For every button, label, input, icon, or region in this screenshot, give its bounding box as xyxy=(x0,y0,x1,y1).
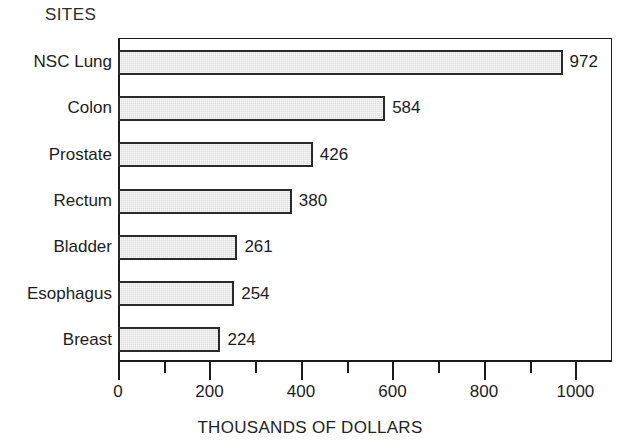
category-label: Breast xyxy=(0,330,112,350)
x-axis-tick-label: 1000 xyxy=(556,382,594,402)
bar-value-label: 380 xyxy=(299,191,327,211)
x-axis-minor-tick xyxy=(164,362,166,373)
x-axis-major-tick xyxy=(484,362,486,380)
x-axis-tick-label: 200 xyxy=(195,382,223,402)
bar-value-label: 972 xyxy=(570,52,598,72)
category-axis-labels: NSC LungColonProstateRectumBladderEsopha… xyxy=(0,38,112,362)
bars-layer xyxy=(118,38,612,362)
bar xyxy=(118,189,292,214)
x-axis-major-tick xyxy=(118,362,120,380)
x-axis-title: THOUSANDS OF DOLLARS xyxy=(0,418,620,438)
x-axis-tick-label: 600 xyxy=(378,382,406,402)
x-axis-minor-tick xyxy=(530,362,532,373)
bar xyxy=(118,50,563,75)
bar xyxy=(118,235,237,260)
category-label: Esophagus xyxy=(0,284,112,304)
bar-value-label: 224 xyxy=(227,330,255,350)
x-axis-major-tick xyxy=(301,362,303,380)
bar-chart: SITES NSC LungColonProstateRectumBladder… xyxy=(0,0,620,441)
category-label: Rectum xyxy=(0,191,112,211)
x-axis-major-tick xyxy=(392,362,394,380)
bar-value-label: 261 xyxy=(244,237,272,257)
x-axis-minor-tick xyxy=(347,362,349,373)
category-label: Colon xyxy=(0,98,112,118)
bar xyxy=(118,327,220,352)
x-axis-minor-tick xyxy=(255,362,257,373)
category-label: Prostate xyxy=(0,145,112,165)
x-axis-major-tick xyxy=(575,362,577,380)
bar xyxy=(118,96,385,121)
category-axis-title: SITES xyxy=(45,5,96,25)
x-axis-tick-label: 400 xyxy=(287,382,315,402)
x-axis-tick-label: 0 xyxy=(113,382,122,402)
x-axis-major-tick xyxy=(209,362,211,380)
bar-value-label: 584 xyxy=(392,98,420,118)
bar xyxy=(118,281,234,306)
bar xyxy=(118,142,313,167)
category-label: NSC Lung xyxy=(0,52,112,72)
bar-value-label: 426 xyxy=(320,145,348,165)
bar-value-label: 254 xyxy=(241,284,269,304)
x-axis-minor-tick xyxy=(438,362,440,373)
x-axis-tick-label: 800 xyxy=(470,382,498,402)
category-label: Bladder xyxy=(0,237,112,257)
